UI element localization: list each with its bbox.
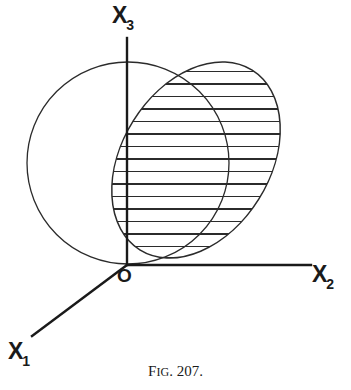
caption-smallcaps: IG — [156, 365, 169, 379]
figure-drawing — [0, 0, 351, 390]
x1-axis-label: X1 — [8, 340, 31, 365]
x1-axis-line — [32, 265, 127, 336]
tilted-ellipse-outline — [77, 31, 315, 289]
axes-group — [32, 38, 311, 336]
hatch-lines-group — [20, 72, 330, 258]
x3-label-subscript: 3 — [126, 17, 134, 33]
caption-suffix: . 207. — [169, 363, 203, 379]
x3-axis-label: X3 — [112, 4, 135, 29]
origin-label: O — [117, 266, 132, 285]
figure-caption: FIG. 207. — [0, 364, 351, 379]
x2-axis-label: X2 — [312, 263, 335, 288]
figure-container: X3 X2 X1 O FIG. 207. — [0, 0, 351, 390]
x2-label-subscript: 2 — [326, 276, 334, 292]
